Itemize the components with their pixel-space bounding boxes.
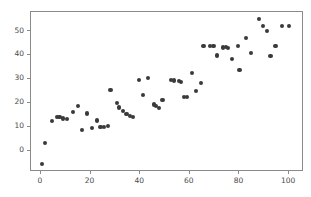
- x-axis-tick-label: 80: [223, 176, 253, 185]
- y-axis-tick-label: 50: [0, 26, 24, 35]
- data-point: [257, 17, 261, 21]
- data-point: [268, 54, 272, 58]
- data-point: [172, 78, 176, 82]
- data-point: [237, 68, 241, 72]
- y-axis-tick: [27, 126, 30, 127]
- x-axis-tick-label: 40: [124, 176, 154, 185]
- y-axis-tick: [27, 102, 30, 103]
- data-point: [201, 44, 205, 48]
- data-point: [76, 104, 80, 108]
- data-point: [160, 98, 164, 102]
- x-axis-tick-label: 0: [25, 176, 55, 185]
- data-point: [71, 110, 75, 114]
- y-axis-tick: [27, 150, 30, 151]
- data-point: [185, 95, 189, 99]
- data-point: [211, 44, 215, 48]
- data-point: [95, 118, 99, 122]
- data-point: [157, 106, 161, 110]
- data-point: [199, 81, 203, 85]
- x-axis-tick: [139, 171, 140, 174]
- data-point: [287, 24, 291, 28]
- data-point: [141, 93, 145, 97]
- data-point: [244, 36, 248, 40]
- data-point: [65, 117, 69, 121]
- y-axis-tick-label: 20: [0, 97, 24, 106]
- data-point: [106, 124, 110, 128]
- data-point: [85, 111, 89, 115]
- data-point: [249, 51, 253, 55]
- x-axis-tick-label: 100: [273, 176, 303, 185]
- x-axis-tick-label: 20: [75, 176, 105, 185]
- data-point: [50, 119, 54, 123]
- data-point: [131, 115, 135, 119]
- data-point: [40, 162, 44, 166]
- y-axis-tick: [27, 78, 30, 79]
- data-point: [280, 24, 284, 28]
- x-axis-tick: [40, 171, 41, 174]
- x-axis-tick: [90, 171, 91, 174]
- x-axis-tick: [238, 171, 239, 174]
- data-point: [194, 89, 198, 93]
- x-axis-tick: [189, 171, 190, 174]
- data-point: [261, 24, 265, 28]
- data-point: [215, 53, 219, 57]
- data-point: [190, 71, 194, 75]
- data-point: [226, 46, 230, 50]
- data-point: [179, 80, 183, 84]
- scatter-plot-figure: 02040608010001020304050: [0, 0, 311, 197]
- x-axis-tick-label: 60: [174, 176, 204, 185]
- y-axis-tick: [27, 54, 30, 55]
- data-point: [265, 29, 269, 33]
- y-axis-tick-label: 0: [0, 145, 24, 154]
- data-point: [230, 57, 234, 61]
- data-point: [43, 141, 47, 145]
- y-axis-tick-label: 30: [0, 73, 24, 82]
- y-axis-tick-label: 40: [0, 49, 24, 58]
- y-axis-tick-label: 10: [0, 121, 24, 130]
- y-axis-tick: [27, 30, 30, 31]
- data-point: [90, 126, 94, 130]
- data-point: [236, 44, 240, 48]
- data-point: [146, 76, 150, 80]
- data-point: [137, 78, 141, 82]
- data-point: [80, 128, 84, 132]
- data-point: [108, 88, 112, 92]
- x-axis-tick: [288, 171, 289, 174]
- data-point: [273, 44, 277, 48]
- plot-area: [30, 11, 303, 171]
